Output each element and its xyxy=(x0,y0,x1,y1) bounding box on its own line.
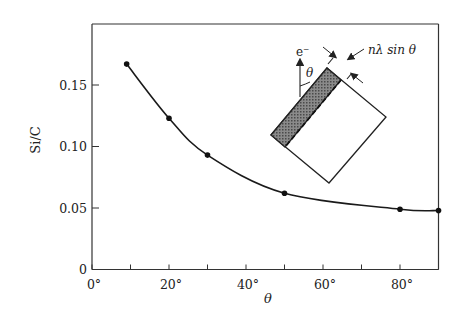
dimension-tick-1 xyxy=(328,58,333,64)
inset-diagram: e⁻ θ nλ sin θ xyxy=(271,43,417,183)
depth-label: nλ sin θ xyxy=(368,43,417,57)
plot-frame xyxy=(92,24,439,270)
dimension-tick-2 xyxy=(347,73,352,79)
angle-label: θ xyxy=(306,66,314,80)
data-point xyxy=(124,61,130,67)
x-tick-label: 0° xyxy=(87,277,101,292)
angle-arc xyxy=(300,82,310,86)
x-tick-label: 60° xyxy=(314,277,336,292)
y-tick-label: 0.10 xyxy=(59,139,87,154)
y-axis-label: Si/C xyxy=(28,126,43,153)
y-tick-label: 0.05 xyxy=(59,201,87,216)
y-tick-label: 0.15 xyxy=(59,78,87,93)
x-ticks: 0°20°40°60°80° xyxy=(87,265,439,293)
y-tick-label: 0 xyxy=(79,262,87,277)
x-tick-label: 80° xyxy=(391,277,413,292)
x-axis-label: θ xyxy=(264,291,272,306)
beam-label: e⁻ xyxy=(296,45,309,59)
data-point xyxy=(282,190,288,196)
data-point xyxy=(166,115,172,121)
dimension-arrow-2 xyxy=(353,75,363,83)
label-leader xyxy=(350,49,364,58)
data-point xyxy=(205,152,211,158)
x-tick-label: 20° xyxy=(160,277,182,292)
x-tick-label: 40° xyxy=(237,277,259,292)
y-ticks: 00.050.100.15 xyxy=(59,78,99,278)
data-point xyxy=(397,206,403,212)
data-point xyxy=(436,208,442,214)
chart: 0°20°40°60°80° 00.050.100.15 Si/C θ e⁻ θ… xyxy=(0,0,464,319)
dimension-arrow-1 xyxy=(323,47,334,56)
